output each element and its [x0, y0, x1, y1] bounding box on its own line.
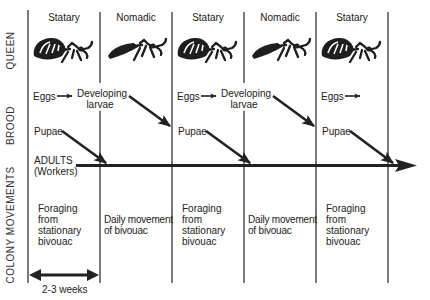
queen-statary-icon-1 [34, 38, 92, 62]
developing-label-2: Developing [220, 88, 272, 99]
pupae-label-1: Pupae [34, 126, 63, 137]
workers-label: (Workers) [34, 166, 78, 177]
diagram-graphics [0, 0, 430, 300]
colony-nomadic-text-1: Daily movement of bivouac [104, 214, 173, 236]
duration-arrowhead-left [29, 269, 41, 281]
eggs-label-1: Eggs [33, 91, 56, 102]
phase-header-4: Nomadic [245, 12, 315, 23]
pupae-label-3: Pupae [322, 126, 351, 137]
diagram-canvas: QUEEN BROOD COLONY MOVEMENTS Statary Nom… [0, 0, 430, 300]
row-label-colony-movements: COLONY MOVEMENTS [5, 178, 16, 284]
phase-header-5: Statary [317, 12, 387, 23]
colony-nomadic-text-2: Daily movement of bivouac [248, 214, 317, 236]
phase-header-2: Nomadic [101, 12, 171, 23]
pupae-label-2: Pupae [178, 126, 207, 137]
pupae-to-adults-arrow-3 [350, 131, 393, 163]
colony-statary-text-3: Foraging from stationary bivouac [326, 203, 369, 247]
duration-label: 2-3 weeks [42, 284, 88, 295]
queen-nomadic-icon-2 [252, 39, 310, 60]
colony-statary-text-2: Foraging from stationary bivouac [182, 203, 225, 247]
duration-arrowhead-right [87, 269, 99, 281]
eggs-label-3: Eggs [321, 91, 344, 102]
row-label-brood: BROOD [5, 106, 16, 146]
eggs-label-2: Eggs [177, 91, 200, 102]
larvae-to-pupae-arrow-2 [273, 96, 314, 126]
phase-header-1: Statary [29, 12, 99, 23]
phase-header-3: Statary [173, 12, 243, 23]
larvae-label-1: larvae [76, 99, 124, 110]
adults-label: ADULTS [34, 155, 73, 166]
developing-label-1: Developing [76, 88, 128, 99]
larvae-to-pupae-arrow-1 [129, 96, 170, 126]
queen-statary-icon-2 [178, 38, 236, 62]
larvae-label-2: larvae [220, 99, 268, 110]
queen-statary-icon-3 [322, 38, 380, 62]
queen-nomadic-icon-1 [108, 39, 166, 60]
colony-statary-text-1: Foraging from stationary bivouac [38, 203, 81, 247]
row-label-queen: QUEEN [5, 31, 16, 71]
